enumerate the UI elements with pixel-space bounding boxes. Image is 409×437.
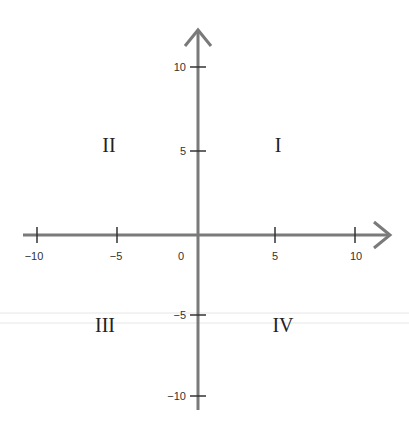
quadrant-label-ii: II — [102, 134, 115, 156]
y-axis — [185, 30, 211, 410]
y-tick-label: 10 — [174, 61, 186, 73]
y-tick-label: 5 — [180, 145, 186, 157]
x-tick-label: −5 — [110, 250, 123, 262]
x-tick-label: −10 — [25, 250, 44, 262]
y-tick-label: −10 — [167, 390, 186, 402]
x-axis — [23, 222, 390, 248]
quadrant-label-iv: IV — [272, 314, 294, 336]
x-tick-label: 10 — [350, 250, 362, 262]
coordinate-plane: −10 −5 5 10 0 10 5 −5 −10 I II III IV — [0, 0, 409, 437]
x-tick-label: 5 — [272, 250, 278, 262]
y-tick-label: −5 — [173, 309, 186, 321]
quadrant-label-i: I — [275, 134, 282, 156]
quadrant-label-iii: III — [95, 314, 115, 336]
origin-label: 0 — [178, 250, 184, 262]
